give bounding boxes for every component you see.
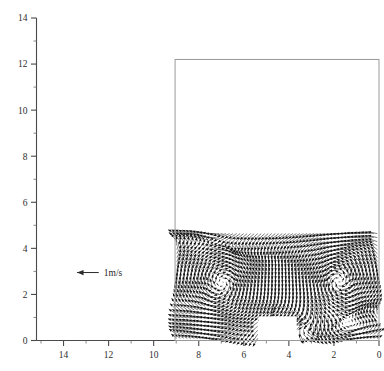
velocity-vector-head	[288, 288, 291, 291]
velocity-vector-head	[345, 298, 348, 300]
velocity-vector-head	[251, 247, 253, 250]
velocity-vector-head	[344, 311, 347, 313]
velocity-vector-head	[335, 277, 337, 278]
velocity-vector-head	[260, 288, 263, 291]
x-tick-label: 6	[241, 350, 246, 360]
velocity-vector-head	[203, 320, 206, 323]
velocity-vector-head	[295, 284, 298, 287]
velocity-vector-head	[321, 320, 323, 323]
x-tick-label: 12	[104, 350, 114, 360]
velocity-vector-head	[309, 288, 312, 291]
velocity-vector-head	[229, 287, 231, 290]
velocity-vector-head	[376, 272, 379, 275]
velocity-vector-head	[257, 284, 260, 287]
x-tick-label: 0	[377, 350, 382, 360]
velocity-vector-head	[333, 245, 336, 248]
velocity-vector-head	[281, 276, 284, 279]
velocity-vector-head	[253, 292, 256, 295]
velocity-vector-head	[281, 284, 284, 287]
velocity-vector-head	[314, 316, 316, 319]
velocity-vector-head	[210, 321, 213, 324]
velocity-vector-head	[295, 280, 298, 283]
velocity-vector-head	[210, 325, 213, 328]
velocity-vector-head	[336, 244, 339, 247]
velocity-vector-head	[311, 312, 313, 315]
velocity-vector-head	[206, 232, 209, 235]
x-tick-label: 4	[286, 350, 291, 360]
velocity-vector-head	[203, 232, 206, 235]
velocity-vector-head	[340, 236, 343, 239]
velocity-vector-head	[223, 271, 226, 273]
velocity-vector-head	[333, 249, 336, 252]
velocity-vector-head	[299, 300, 302, 303]
velocity-vector-head	[313, 288, 316, 291]
velocity-vector-head	[292, 284, 295, 287]
velocity-vector-head	[349, 273, 352, 276]
velocity-vector-head	[325, 284, 327, 287]
velocity-vector-head	[302, 284, 305, 287]
velocity-vector-head	[332, 288, 334, 291]
velocity-vector-head	[277, 296, 280, 299]
velocity-vector-head	[211, 292, 214, 294]
velocity-vector-head	[341, 299, 344, 301]
velocity-vector-head	[333, 237, 336, 240]
velocity-vector-head	[343, 232, 346, 235]
y-tick-label: 4	[23, 244, 28, 254]
velocity-vector-head	[281, 268, 284, 271]
velocity-vector-head	[274, 296, 277, 299]
velocity-vector-head	[329, 332, 331, 335]
velocity-vector-head	[241, 280, 243, 283]
velocity-vector-head	[256, 296, 259, 299]
velocity-vector-head	[341, 303, 344, 305]
velocity-vector-head	[281, 272, 284, 275]
velocity-vector-head	[190, 250, 193, 253]
velocity-vector-head	[319, 316, 321, 319]
velocity-vector-head	[179, 276, 182, 279]
velocity-vector-head	[213, 281, 215, 284]
velocity-vector-head	[239, 275, 242, 278]
velocity-vector-head	[219, 279, 220, 280]
velocity-vector-head	[276, 252, 278, 255]
velocity-vector-head	[327, 276, 330, 279]
velocity-vector-head	[171, 334, 174, 337]
velocity-vector-head	[264, 288, 267, 291]
velocity-vector-head	[271, 260, 274, 263]
velocity-vector-head	[214, 239, 217, 241]
velocity-vector-head	[298, 280, 301, 283]
y-tick-label: 10	[18, 106, 28, 116]
velocity-vector-head	[336, 236, 339, 239]
velocity-vector-head	[285, 292, 288, 295]
velocity-vector-head	[274, 292, 277, 295]
velocity-vector-head	[267, 292, 270, 295]
velocity-vector-head	[375, 285, 377, 288]
velocity-vector-head	[203, 325, 206, 328]
velocity-vector-head	[336, 297, 339, 300]
velocity-vector-head	[270, 256, 273, 259]
axes	[37, 18, 380, 341]
x-tick-label: 2	[332, 350, 337, 360]
velocity-vector-head	[264, 256, 267, 259]
x-tick-label: 10	[149, 350, 159, 360]
velocity-vector-head	[274, 268, 277, 271]
y-tick-label: 12	[18, 59, 28, 69]
velocity-vector-head	[267, 280, 270, 283]
velocity-vector-head	[322, 284, 324, 287]
velocity-vector-head	[278, 292, 281, 295]
scale-arrow-head	[77, 270, 84, 275]
velocity-vector-head	[323, 325, 326, 328]
velocity-vector-head	[278, 276, 281, 279]
velocity-vector-head	[210, 317, 213, 320]
velocity-vector-head	[222, 259, 225, 261]
velocity-vector-head	[249, 292, 252, 295]
velocity-vector-head	[292, 292, 295, 295]
velocity-vector-head	[334, 291, 337, 294]
velocity-vector-head	[169, 309, 172, 312]
velocity-vector-head	[254, 247, 256, 250]
velocity-vector-head	[229, 236, 232, 239]
velocity-vector-head	[240, 270, 243, 273]
velocity-vector-head	[288, 300, 291, 303]
y-tick-label: 0	[23, 336, 28, 346]
velocity-vector-head	[291, 280, 294, 283]
velocity-vector-head	[234, 284, 236, 287]
velocity-vector-head	[325, 320, 327, 323]
